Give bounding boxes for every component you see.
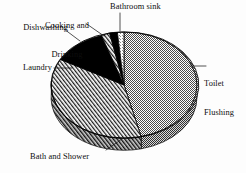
pie-label-dishwashing: Dishwashing xyxy=(2,23,68,33)
pie-label-toilet-flushing-line2: Flushing xyxy=(204,108,246,118)
pie-label-toilet-flushing: Toilet Flushing xyxy=(204,60,246,137)
pie-label-laundry: Laundry xyxy=(2,63,52,73)
pie-label-cooking-and-drinking-line2: Drinking xyxy=(36,50,98,60)
pie-chart-figure: Cooking and Drinking Bathroom sink Dishw… xyxy=(0,0,246,173)
pie-label-toilet-flushing-line1: Toilet xyxy=(204,79,246,89)
pie-label-bathroom-sink: Bathroom sink xyxy=(110,2,182,12)
pie-label-bath-and-shower: Bath and Shower xyxy=(30,152,122,162)
